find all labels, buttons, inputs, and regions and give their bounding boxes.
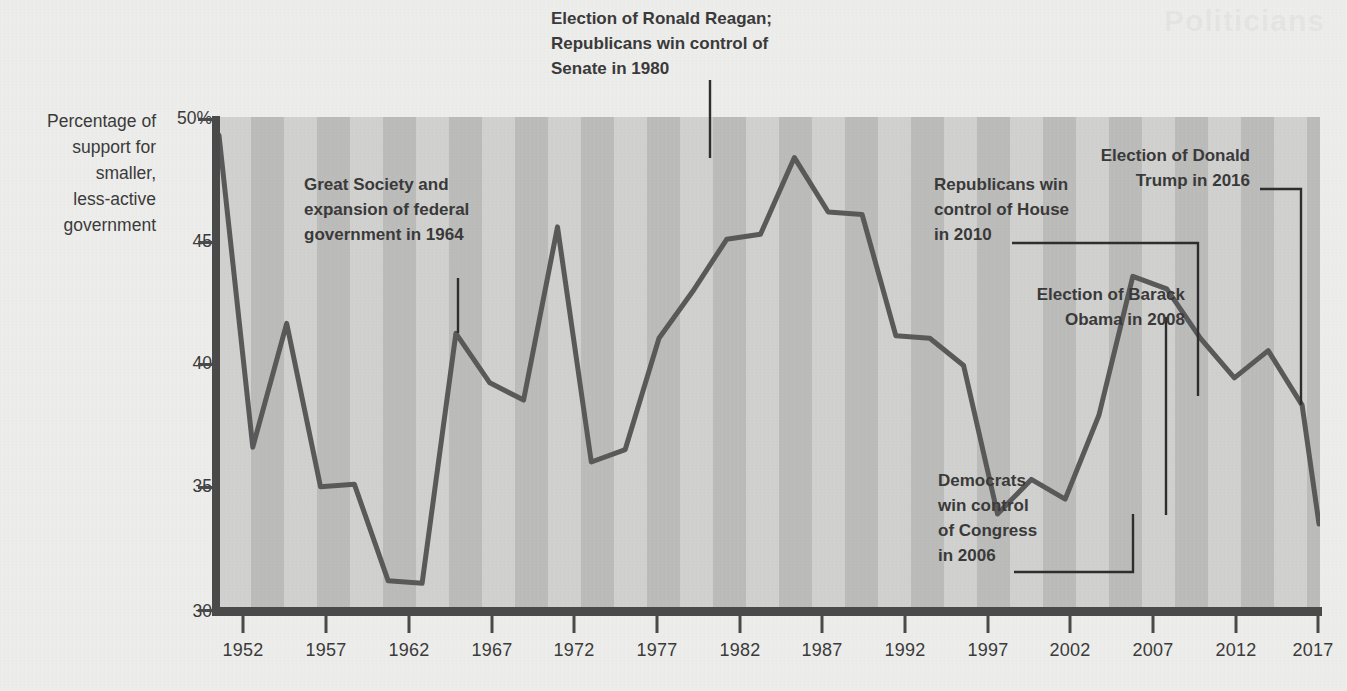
leader-trump bbox=[1260, 189, 1301, 405]
annotation-trump: Election of Donald Trump in 2016 bbox=[1045, 143, 1250, 193]
annotation-reagan: Election of Ronald Reagan; Republicans w… bbox=[551, 6, 841, 81]
annotation-obama: Election of Barack Obama in 2008 bbox=[950, 282, 1185, 332]
chart-page: Politicians Percentage of support for sm… bbox=[0, 0, 1347, 691]
annotation-great-society: Great Society and expansion of federal g… bbox=[304, 172, 514, 247]
annotation-leader-lines bbox=[0, 0, 1347, 691]
annotation-democrats-congress: Democrats win control of Congress in 200… bbox=[938, 468, 1088, 568]
